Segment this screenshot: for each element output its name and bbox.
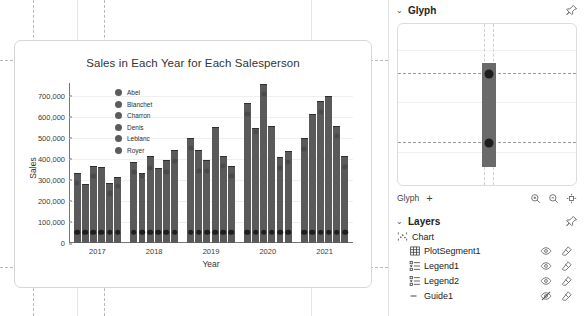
- baseline-marker[interactable]: [310, 229, 316, 235]
- baseline-marker[interactable]: [342, 229, 348, 235]
- glyph-marker-bottom[interactable]: [485, 139, 494, 148]
- legend-item[interactable]: Abel: [115, 87, 152, 99]
- chart-canvas[interactable]: Sales in Each Year for Each Salesperson …: [0, 0, 388, 316]
- layer-label: Legend2: [424, 276, 459, 286]
- baseline-marker[interactable]: [204, 229, 210, 235]
- baseline-marker[interactable]: [147, 229, 153, 235]
- layers-panel-header[interactable]: ⌄ Layers: [389, 211, 585, 231]
- bar-mark[interactable]: [187, 138, 194, 243]
- glyph-editor-stage[interactable]: [397, 23, 577, 186]
- layer-row[interactable]: Legend2: [389, 273, 585, 288]
- baseline-marker[interactable]: [253, 229, 259, 235]
- baseline-marker[interactable]: [172, 229, 178, 235]
- bar-mark[interactable]: [317, 101, 324, 243]
- grid-icon: [409, 245, 420, 256]
- legend-swatch-icon: [115, 89, 122, 96]
- baseline-marker[interactable]: [220, 229, 226, 235]
- legend-item[interactable]: Leblanc: [115, 133, 152, 145]
- bar-cap: [171, 150, 178, 151]
- baseline-marker[interactable]: [155, 229, 161, 235]
- bar-mark[interactable]: [301, 138, 308, 243]
- bar-cap: [130, 162, 137, 163]
- bar-mark[interactable]: [260, 84, 267, 243]
- baseline-marker[interactable]: [269, 229, 275, 235]
- eye-icon[interactable]: [540, 260, 552, 272]
- bar-mark[interactable]: [244, 103, 251, 243]
- pin-icon[interactable]: [565, 215, 578, 228]
- layer-row[interactable]: Legend1: [389, 258, 585, 273]
- baseline-marker[interactable]: [115, 229, 121, 235]
- plot-segment[interactable]: 0100,000200,000300,000400,000500,000600,…: [69, 83, 353, 243]
- bar-mark[interactable]: [268, 126, 275, 243]
- legend-icon: [409, 275, 420, 286]
- bar-mark[interactable]: [309, 114, 316, 243]
- eraser-icon[interactable]: [561, 290, 573, 302]
- baseline-marker[interactable]: [131, 229, 137, 235]
- legend-item[interactable]: Denis: [115, 122, 152, 134]
- bar-cap: [333, 126, 340, 127]
- layer-row[interactable]: Guide1: [389, 288, 585, 303]
- eye-off-icon[interactable]: [540, 290, 552, 302]
- baseline-marker[interactable]: [326, 229, 332, 235]
- fit-icon[interactable]: [566, 193, 577, 204]
- baseline-marker[interactable]: [82, 229, 88, 235]
- baseline-marker[interactable]: [301, 229, 307, 235]
- baseline-marker[interactable]: [229, 229, 235, 235]
- chart-title: Sales in Each Year for Each Salesperson: [15, 57, 371, 69]
- layers-list[interactable]: Chart PlotSegment1Legend1Legend2Guide1: [389, 230, 585, 303]
- baseline-marker[interactable]: [107, 229, 113, 235]
- eraser-icon[interactable]: [561, 275, 573, 287]
- baseline-marker[interactable]: [261, 229, 267, 235]
- baseline-marker[interactable]: [334, 229, 340, 235]
- baseline-marker[interactable]: [212, 229, 218, 235]
- eraser-icon[interactable]: [561, 245, 573, 257]
- bar-cap: [90, 166, 97, 167]
- eraser-icon[interactable]: [561, 260, 573, 272]
- glyph-marker-top[interactable]: [485, 70, 494, 79]
- legend-item[interactable]: Blanchet: [115, 99, 152, 111]
- baseline-marker[interactable]: [139, 229, 145, 235]
- legend[interactable]: AbelBlanchetCharronDenisLeblancRoyer: [115, 87, 152, 156]
- baseline-marker[interactable]: [99, 229, 105, 235]
- baseline-marker[interactable]: [196, 229, 202, 235]
- bar-mark[interactable]: [252, 128, 259, 243]
- baseline-marker[interactable]: [74, 229, 80, 235]
- chevron-down-icon[interactable]: ⌄: [396, 6, 403, 15]
- legend-item-label: Charron: [127, 112, 150, 119]
- layer-actions: [540, 290, 585, 302]
- layer-row[interactable]: PlotSegment1: [389, 243, 585, 258]
- baseline-marker[interactable]: [285, 229, 291, 235]
- glyph-toolbar[interactable]: Glyph +: [389, 189, 585, 207]
- legend-item[interactable]: Charron: [115, 110, 152, 122]
- glyph-bar-mark[interactable]: [482, 63, 496, 167]
- right-sidebar[interactable]: ⌄ Glyph Glyph +: [388, 0, 585, 316]
- baseline-marker[interactable]: [245, 229, 251, 235]
- bar-cap: [106, 183, 113, 184]
- glyph-tab-label[interactable]: Glyph: [397, 193, 419, 203]
- bar-cap: [187, 138, 194, 139]
- chevron-down-icon[interactable]: ⌄: [396, 217, 403, 226]
- zoom-in-icon[interactable]: [530, 193, 541, 204]
- bar-cap: [155, 168, 162, 169]
- baseline-marker[interactable]: [91, 229, 97, 235]
- legend-icon: [409, 260, 420, 271]
- glyph-panel-header[interactable]: ⌄ Glyph: [389, 0, 585, 20]
- baseline-marker[interactable]: [164, 229, 170, 235]
- y-axis-tick-label: 700,000: [38, 91, 69, 100]
- x-axis-tick-label: 2021: [316, 247, 333, 256]
- bar-cap: [285, 151, 292, 152]
- baseline-marker[interactable]: [277, 229, 283, 235]
- bar-mark[interactable]: [212, 127, 219, 243]
- add-glyph-button[interactable]: +: [426, 192, 432, 204]
- chart-frame[interactable]: Sales in Each Year for Each Salesperson …: [14, 40, 372, 288]
- pin-icon[interactable]: [565, 4, 578, 17]
- layer-row-chart[interactable]: Chart: [389, 230, 585, 243]
- baseline-marker[interactable]: [188, 229, 194, 235]
- bar-mark[interactable]: [333, 126, 340, 243]
- bar-mark[interactable]: [325, 96, 332, 243]
- eye-icon[interactable]: [540, 275, 552, 287]
- zoom-out-icon[interactable]: [548, 193, 559, 204]
- legend-item[interactable]: Royer: [115, 145, 152, 157]
- eye-icon[interactable]: [540, 245, 552, 257]
- baseline-marker[interactable]: [318, 229, 324, 235]
